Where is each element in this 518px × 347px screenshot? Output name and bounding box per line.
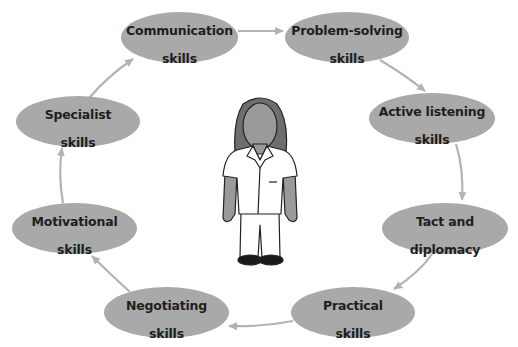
node-tact-and-diplomacy: Tact and diplomacy — [382, 203, 508, 254]
node-label: Problem-solving skills — [291, 10, 402, 66]
node-label-line2: skills — [336, 326, 371, 341]
arrow-tact-to-practical — [394, 254, 432, 289]
node-label: Active listening skills — [379, 91, 486, 147]
arrow-practical-to-negotiating — [229, 321, 293, 326]
node-label-line2: skills — [57, 242, 92, 257]
node-communication-skills: Communication skills — [121, 12, 238, 63]
node-specialist-skills: Specialist skills — [16, 96, 140, 147]
node-label-line1: Communication — [126, 23, 233, 38]
node-label-line2: diplomacy — [410, 242, 480, 257]
node-label: Tact and diplomacy — [410, 201, 480, 257]
skills-cycle-diagram: Communication skills Problem-solving ski… — [0, 0, 518, 347]
node-label: Communication skills — [126, 10, 233, 66]
node-label-line1: Practical — [323, 298, 383, 313]
node-label-line2: skills — [415, 132, 450, 147]
node-motivational-skills: Motivational skills — [12, 203, 137, 254]
node-label-line1: Specialist — [45, 107, 112, 122]
person-icon — [205, 90, 315, 270]
arrow-active-listening-to-tact — [456, 144, 462, 200]
arrow-negotiating-to-motivational — [92, 256, 130, 292]
node-label: Motivational skills — [32, 201, 118, 257]
node-label-line2: skills — [162, 51, 197, 66]
node-label-line2: skills — [330, 51, 365, 66]
node-label: Specialist skills — [45, 94, 112, 150]
node-label: Negotiating skills — [126, 285, 207, 341]
node-label-line2: skills — [149, 326, 184, 341]
node-active-listening-skills: Active listening skills — [369, 93, 495, 144]
node-problem-solving-skills: Problem-solving skills — [285, 12, 409, 63]
node-label-line1: Negotiating — [126, 298, 207, 313]
node-label-line1: Motivational — [32, 214, 118, 229]
node-negotiating-skills: Negotiating skills — [104, 287, 229, 338]
node-label-line1: Problem-solving — [291, 23, 402, 38]
node-label-line1: Active listening — [379, 104, 486, 119]
node-label-line2: skills — [61, 135, 96, 150]
arrow-motivational-to-specialist — [60, 148, 63, 203]
node-label: Practical skills — [323, 285, 383, 341]
node-practical-skills: Practical skills — [291, 287, 415, 338]
node-label-line1: Tact and — [416, 214, 474, 229]
